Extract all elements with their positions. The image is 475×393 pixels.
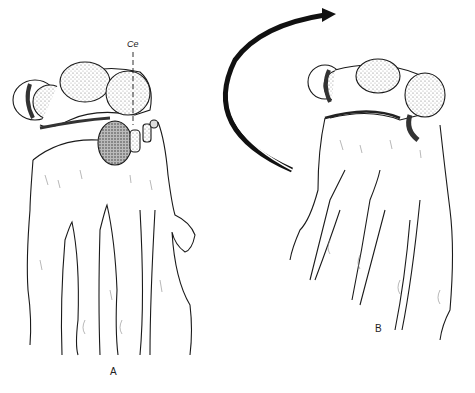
figure-canvas (0, 0, 475, 393)
panel-label-a: A (110, 366, 117, 377)
panel-b-drawing (290, 59, 453, 340)
panel-label-b: B (375, 323, 382, 334)
panel-a-drawing (13, 52, 195, 355)
annotation-ce: Ce (127, 39, 139, 49)
